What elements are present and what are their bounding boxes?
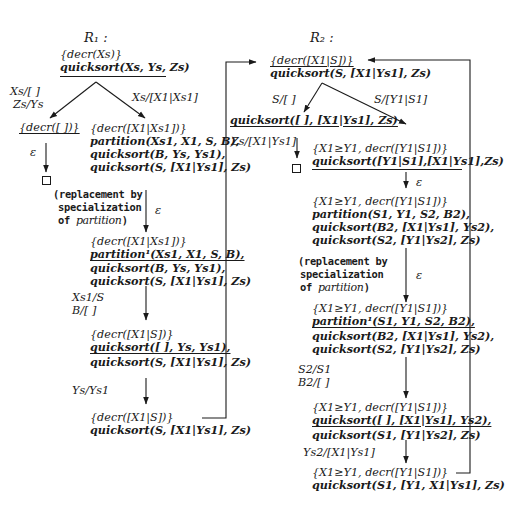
- r2-node-b-line4: quicksort(S2, [Y1|Ys2], Zs): [312, 234, 481, 247]
- r1-node-d-line2: quicksort(S, [X1|Ys1], Zs): [90, 424, 251, 437]
- r1-edge-left: [50, 82, 96, 118]
- r2-edge-d-label: Ys2/[X1|Ys1]: [303, 446, 375, 459]
- r2-node-c-line4: quicksort(S2, [Y1|Ys2], Zs): [312, 343, 481, 356]
- r1-edge-left-label-2: Zs/Ys: [13, 98, 43, 111]
- r2-replacement-line1: (replacement by: [298, 255, 387, 268]
- r1-replacement-line1: (replacement by: [53, 188, 142, 201]
- r1-replacement-suffix: ): [122, 214, 128, 226]
- r2-node-d-line3: quicksort(S1, [Y1|Ys2], Zs): [312, 429, 481, 442]
- r2-left-leaf-edge-label: Zs/[X1|Ys1]: [231, 135, 296, 148]
- r1-root-goal: quicksort(Xs, Ys, Zs): [60, 61, 190, 74]
- r2-node-e-line2: quicksort(S1, [Y1, X1|Ys1], Zs): [312, 479, 505, 492]
- r1-node-b-line2: partition¹(Xs1, X1, S, B),: [90, 248, 245, 261]
- r1-node-c-line2: quicksort([ ], Ys, Ys1),: [90, 341, 231, 354]
- r1-title: R₁ :: [84, 30, 108, 45]
- r1-edge-b-label-2: B/[ ]: [72, 304, 96, 317]
- r1-edge-left-label-1: Xs/[ ]: [10, 85, 40, 98]
- r2-edge-c-label-2: B2/[ ]: [298, 376, 329, 389]
- r1-left-leaf-constraint: {decr([ ])}: [19, 121, 80, 134]
- r1-node-a-line4: quicksort(S, [X1|Ys1], Zs): [90, 161, 251, 174]
- r1-eps-a: ε: [155, 203, 161, 217]
- r2-edge-left-label: S/[ ]: [272, 93, 296, 106]
- r2-replacement-prefix: of: [300, 281, 318, 293]
- r1-node-b-line4: quicksort(S, [X1|Ys1], Zs): [90, 275, 251, 288]
- empty-clause-icon: [292, 164, 301, 173]
- r1-replacement-line2: specialization: [58, 201, 141, 214]
- r2-eps-a: ε: [416, 175, 422, 189]
- r2-edge-c-label-1: S2/S1: [298, 363, 331, 376]
- r2-replacement-italic: partition: [318, 281, 364, 294]
- r1-node-c-line3: quicksort(S, [X1|Ys1], Zs): [90, 356, 251, 369]
- r1-replacement-prefix: of: [58, 214, 76, 226]
- r2-replacement-suffix: ): [364, 281, 370, 293]
- r1-replacement-italic: partition: [76, 214, 122, 227]
- r2-edge-left: [304, 83, 322, 112]
- r1-left-eps: ε: [30, 145, 36, 159]
- r2-replacement-line2: specialization: [300, 268, 383, 281]
- r2-replacement-line3: of partition): [300, 281, 370, 294]
- r2-node-d-line2: quicksort([ ], [X1|Ys1], Ys2),: [312, 414, 491, 427]
- r2-title: R₂ :: [310, 30, 334, 45]
- r2-root-goal: quicksort(S, [X1|Ys1], Zs): [270, 67, 431, 80]
- empty-clause-icon: [42, 176, 51, 185]
- r2-node-c-line2: partition¹(S1, Y1, S2, B2),: [312, 315, 475, 328]
- r1-edge-right-label: Xs/[X1|Xs1]: [132, 91, 198, 104]
- r1-edge-b-label-1: Xs1/S: [72, 291, 104, 304]
- r2-node-a-line2: quicksort([Y1|S1],[X1|Ys1],Zs): [312, 155, 504, 168]
- r1-replacement-line3: of partition): [58, 214, 128, 227]
- r2-node-a-underline: [312, 169, 462, 170]
- r1-edge-c-label: Ys/Ys1: [72, 384, 109, 397]
- r2-eps-b: ε: [416, 268, 422, 282]
- r2-left-leaf-goal: quicksort([ ], [X1|Ys1], Zs): [230, 114, 398, 127]
- r2-edge-right-label: S/[Y1|S1]: [374, 93, 427, 106]
- r1-root-underline: [60, 76, 166, 77]
